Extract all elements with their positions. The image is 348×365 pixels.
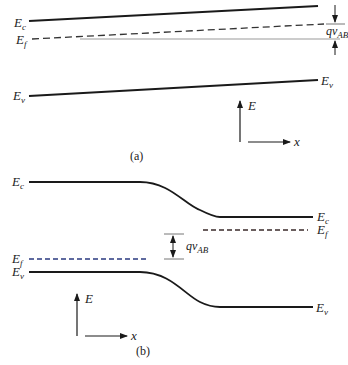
conduction-band-curve-b [29, 182, 313, 217]
band-diagram: Ec Ef Ev Ev qvAB E x (a) qvAB Ec Ef Ev E… [0, 0, 348, 365]
valence-band-curve-b [29, 272, 313, 307]
label-qv-b: qvAB [186, 239, 209, 255]
axis-label-e-a: E [247, 98, 256, 113]
conduction-band-line-a [29, 6, 318, 21]
caption-b: (b) [136, 344, 150, 358]
valence-band-line-a [29, 80, 318, 96]
label-ev-left-a: Ev [12, 88, 25, 105]
label-ec-left-a: Ec [13, 15, 26, 32]
axis-label-e-b: E [84, 291, 93, 306]
panel-b: qvAB Ec Ef Ev Ec Ef Ev E x (b) [11, 174, 329, 358]
label-ec-left-b: Ec [11, 174, 24, 191]
label-ev-right-b: Ev [315, 300, 328, 317]
fermi-level-dashed-a [32, 24, 324, 39]
label-ev-right-a: Ev [320, 73, 333, 90]
caption-a: (a) [130, 149, 143, 163]
label-ef-left-a: Ef [15, 32, 28, 49]
axis-label-x-b: x [130, 328, 137, 343]
label-qv-a: qvAB [326, 24, 348, 40]
panel-a: Ec Ef Ev Ev qvAB E x (a) [12, 5, 348, 163]
axis-label-x-a: x [293, 134, 300, 149]
